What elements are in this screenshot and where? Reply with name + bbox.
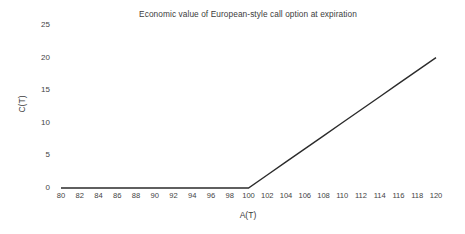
chart-figure: Economic value of European-style call op…: [0, 0, 465, 234]
y-tick-label: 20: [24, 54, 50, 62]
series-payoff-line: [61, 58, 436, 188]
y-axis-title: C(T): [17, 74, 27, 134]
payoff-polyline: [61, 58, 436, 188]
y-tick-label: 15: [24, 86, 50, 94]
y-tick-label: 10: [24, 119, 50, 127]
y-tick-label: 5: [24, 151, 50, 159]
x-axis-title: A(T): [60, 210, 436, 220]
y-tick-label: 25: [24, 21, 50, 29]
x-tick-label: 120: [423, 192, 449, 200]
y-tick-label: 0: [24, 184, 50, 192]
